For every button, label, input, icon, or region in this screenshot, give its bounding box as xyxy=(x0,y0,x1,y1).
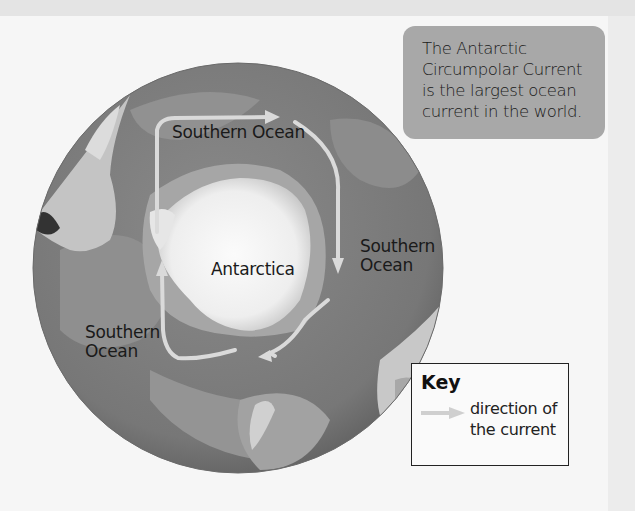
fact-line: current in the world. xyxy=(422,101,595,122)
label-line: Southern xyxy=(360,237,435,256)
label-antarctica: Antarctica xyxy=(211,260,295,279)
key-title: Key xyxy=(421,371,461,393)
key-line: the current xyxy=(470,419,557,440)
fact-line: Circumpolar Current xyxy=(422,59,595,80)
label-line: Southern xyxy=(85,323,160,342)
map-key: Key direction of the current xyxy=(411,363,569,466)
fact-box: The Antarctic Circumpolar Current is the… xyxy=(403,26,605,139)
label-southern-ocean-right: Southern Ocean xyxy=(360,237,435,275)
fact-line: is the largest ocean xyxy=(422,80,595,101)
fact-line: The Antarctic xyxy=(422,38,595,59)
label-southern-ocean-left: Southern Ocean xyxy=(85,323,160,361)
arrow-right-icon xyxy=(421,407,465,419)
key-description: direction of the current xyxy=(470,398,557,440)
label-line: Ocean xyxy=(360,256,435,275)
label-line: Ocean xyxy=(85,342,160,361)
key-line: direction of xyxy=(470,398,557,419)
label-southern-ocean-top: Southern Ocean xyxy=(172,123,305,142)
